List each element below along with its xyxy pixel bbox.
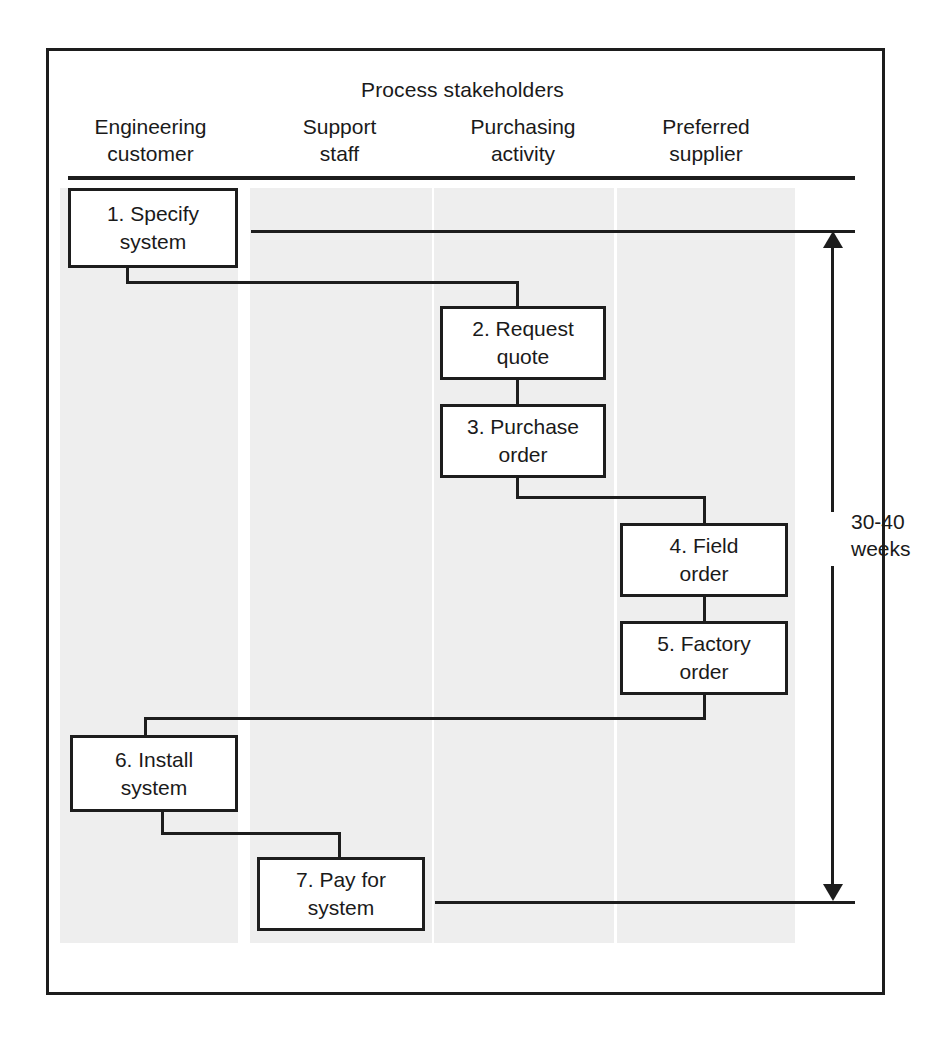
connector-3-4-horizontal — [516, 496, 706, 499]
process-box-4-line1: 4. Field — [670, 534, 739, 557]
lane-header-line2: supplier — [617, 140, 795, 167]
connector-4-5-vertical — [703, 595, 706, 622]
process-box-2[interactable]: 2. Request quote — [440, 306, 606, 380]
connector-2-3-vertical — [516, 378, 519, 406]
process-box-1-line2: system — [107, 228, 199, 256]
lane-header-preferred-supplier: Preferred supplier — [617, 113, 795, 167]
lane-header-line1: Preferred — [662, 115, 750, 138]
timeline-start-reference-line — [251, 230, 855, 233]
lane-band-support-staff — [250, 188, 432, 943]
lane-header-line2: activity — [434, 140, 612, 167]
lane-header-engineering-customer: Engineering customer — [63, 113, 238, 167]
process-box-3-line1: 3. Purchase — [467, 415, 579, 438]
connector-5-6-horizontal — [144, 717, 706, 720]
process-box-5-line1: 5. Factory — [657, 632, 750, 655]
lane-header-line1: Engineering — [94, 115, 206, 138]
process-box-7-line2: system — [296, 894, 386, 922]
swimlane-process-diagram: Process stakeholders Engineering custome… — [0, 0, 925, 1045]
connector-6-7-horizontal — [161, 832, 341, 835]
process-box-1-line1: 1. Specify — [107, 202, 199, 225]
process-box-6-line2: system — [115, 774, 193, 802]
process-box-2-line1: 2. Request — [472, 317, 574, 340]
lane-header-line2: customer — [63, 140, 238, 167]
connector-1-2-horizontal — [126, 281, 519, 284]
timeline-duration-line2: weeks — [851, 535, 911, 562]
connector-3-4-vertical-b — [703, 496, 706, 525]
process-box-4-line2: order — [670, 560, 739, 588]
process-box-6[interactable]: 6. Install system — [70, 735, 238, 812]
connector-5-6-vertical-b — [144, 717, 147, 737]
timeline-shaft-lower — [831, 566, 834, 884]
process-box-3-line2: order — [467, 441, 579, 469]
lane-band-purchasing-activity — [434, 188, 614, 943]
timeline-arrowhead-bottom — [823, 884, 843, 901]
connector-5-6-vertical-a — [703, 693, 706, 720]
process-box-1[interactable]: 1. Specify system — [68, 188, 238, 268]
process-box-5[interactable]: 5. Factory order — [620, 621, 788, 695]
timeline-duration-line1: 30-40 — [851, 510, 905, 533]
process-box-7[interactable]: 7. Pay for system — [257, 857, 425, 931]
timeline-arrowhead-top — [823, 231, 843, 248]
lane-header-line2: staff — [252, 140, 427, 167]
lane-header-line1: Purchasing — [470, 115, 575, 138]
lane-header-support-staff: Support staff — [252, 113, 427, 167]
process-box-7-line1: 7. Pay for — [296, 868, 386, 891]
lane-band-engineering-customer — [60, 188, 238, 943]
lane-header-purchasing-activity: Purchasing activity — [434, 113, 612, 167]
lane-header-line1: Support — [303, 115, 377, 138]
process-box-6-line1: 6. Install — [115, 748, 193, 771]
process-box-4[interactable]: 4. Field order — [620, 523, 788, 597]
connector-6-7-vertical-b — [338, 832, 341, 858]
timeline-shaft-upper — [831, 247, 834, 512]
connector-1-2-vertical-b — [516, 281, 519, 308]
header-divider-rule — [68, 176, 855, 180]
process-box-2-line2: quote — [472, 343, 574, 371]
timeline-duration-label: 30-40 weeks — [851, 508, 911, 562]
diagram-title: Process stakeholders — [0, 78, 925, 102]
timeline-end-reference-line — [435, 901, 855, 904]
process-box-5-line2: order — [657, 658, 750, 686]
process-box-3[interactable]: 3. Purchase order — [440, 404, 606, 478]
